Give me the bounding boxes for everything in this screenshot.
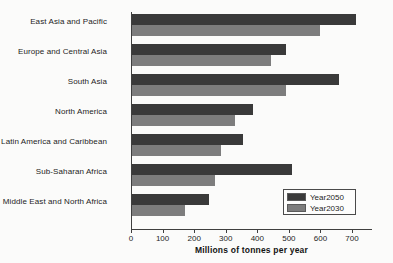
bar-group: Latin America and Caribbean bbox=[131, 134, 371, 156]
category-label: Middle East and North Africa bbox=[3, 197, 107, 206]
bar-year2030 bbox=[131, 175, 215, 186]
bar-year2050 bbox=[131, 74, 339, 85]
bar-year2050 bbox=[131, 44, 286, 55]
bar-year2030 bbox=[131, 25, 320, 36]
x-tick-mark bbox=[226, 229, 227, 233]
x-tick-mark bbox=[194, 229, 195, 233]
category-label: Europe and Central Asia bbox=[18, 47, 107, 56]
legend-label-year2030: Year2030 bbox=[310, 204, 344, 213]
chart-screenshot: East Asia and PacificEurope and Central … bbox=[0, 0, 393, 263]
category-label: South Asia bbox=[68, 77, 107, 86]
legend-swatch-year2050 bbox=[287, 193, 306, 201]
bar-year2030 bbox=[131, 85, 286, 96]
x-axis-title: Millions of tonnes per year bbox=[131, 245, 372, 255]
x-tick-mark bbox=[163, 229, 164, 233]
legend-item-year2050: Year2050 bbox=[287, 192, 352, 202]
x-tick-mark bbox=[131, 229, 132, 233]
x-tick-label: 500 bbox=[282, 234, 295, 243]
legend-swatch-year2030 bbox=[287, 204, 306, 212]
x-tick-label: 200 bbox=[187, 234, 200, 243]
x-tick-label: 100 bbox=[156, 234, 169, 243]
bar-group: Sub-Saharan Africa bbox=[131, 164, 371, 186]
x-tick-mark bbox=[352, 229, 353, 233]
bar-group: East Asia and Pacific bbox=[131, 14, 371, 36]
x-tick-mark bbox=[257, 229, 258, 233]
bar-group: South Asia bbox=[131, 74, 371, 96]
bar-group: North America bbox=[131, 104, 371, 126]
bar-year2030 bbox=[131, 145, 221, 156]
x-tick-mark bbox=[289, 229, 290, 233]
category-label: North America bbox=[55, 107, 107, 116]
bar-year2030 bbox=[131, 115, 235, 126]
x-tick-label: 400 bbox=[251, 234, 264, 243]
legend-label-year2050: Year2050 bbox=[310, 193, 344, 202]
bar-year2050 bbox=[131, 164, 292, 175]
category-label: East Asia and Pacific bbox=[30, 17, 107, 26]
x-tick-label: 600 bbox=[314, 234, 327, 243]
x-tick-label: 300 bbox=[219, 234, 232, 243]
bar-year2030 bbox=[131, 55, 271, 66]
bar-year2030 bbox=[131, 205, 185, 216]
bar-year2050 bbox=[131, 134, 243, 145]
bar-year2050 bbox=[131, 104, 253, 115]
bar-group: Europe and Central Asia bbox=[131, 44, 371, 66]
bar-year2050 bbox=[131, 14, 356, 25]
x-axis-line bbox=[131, 229, 372, 230]
bar-year2050 bbox=[131, 194, 209, 205]
chart-legend: Year2050 Year2030 bbox=[283, 189, 356, 215]
x-tick-mark bbox=[320, 229, 321, 233]
category-label: Latin America and Caribbean bbox=[1, 137, 107, 146]
x-tick-label: 0 bbox=[129, 234, 133, 243]
legend-item-year2030: Year2030 bbox=[287, 203, 352, 213]
y-axis-line bbox=[131, 12, 132, 230]
category-label: Sub-Saharan Africa bbox=[36, 167, 107, 176]
x-tick-label: 700 bbox=[345, 234, 358, 243]
